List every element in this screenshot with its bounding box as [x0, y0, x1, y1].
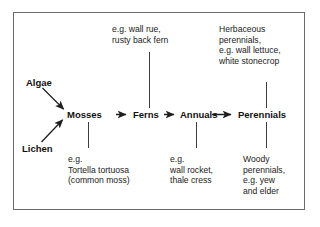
diagram-canvas: Algae Lichen Mosses Ferns Annuals Perenn…	[0, 0, 320, 227]
note-ferns-above: e.g. wall rue, rusty back fern	[112, 24, 168, 45]
node-algae[interactable]: Algae	[26, 77, 52, 88]
note-line: white stonecrop	[219, 56, 281, 67]
note-mosses-below: e.g. Tortella tortuosa (common moss)	[68, 154, 130, 186]
note-line: Tortella tortuosa	[68, 165, 130, 176]
node-annuals[interactable]: Annuals	[180, 109, 217, 120]
note-line: e.g.	[170, 154, 213, 165]
note-line: perennials,	[243, 165, 285, 176]
note-line: e.g. wall rue,	[112, 24, 168, 35]
note-line: e.g. wall lettuce,	[219, 45, 281, 56]
note-perennials-below: Woody perennials, e.g. yew and elder	[243, 154, 285, 196]
connector-perennials-above	[266, 82, 267, 108]
note-line: thale cress	[170, 175, 213, 186]
note-perennials-above: Herbaceous perennials, e.g. wall lettuce…	[219, 24, 281, 66]
note-line: e.g. yew	[243, 175, 285, 186]
connector-ferns-above	[149, 52, 150, 108]
note-line: rusty back fern	[112, 35, 168, 46]
note-line: Herbaceous	[219, 24, 281, 35]
connector-annuals-below	[196, 122, 197, 148]
node-lichen[interactable]: Lichen	[22, 143, 53, 154]
note-line: perennials,	[219, 35, 281, 46]
note-line: Woody	[243, 154, 285, 165]
connector-perennials-below	[266, 122, 267, 148]
note-line: e.g.	[68, 154, 130, 165]
note-line: and elder	[243, 186, 285, 197]
note-annuals-below: e.g. wall rocket, thale cress	[170, 154, 213, 186]
node-ferns[interactable]: Ferns	[133, 109, 159, 120]
note-line: (common moss)	[68, 175, 130, 186]
node-perennials[interactable]: Perennials	[238, 109, 286, 120]
note-line: wall rocket,	[170, 165, 213, 176]
connector-mosses-below	[88, 122, 89, 148]
node-mosses[interactable]: Mosses	[67, 109, 102, 120]
